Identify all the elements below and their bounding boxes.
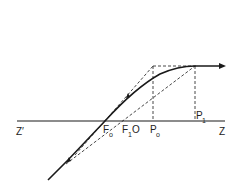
- label-p0-sub: o: [156, 131, 160, 138]
- label-f0-sub: o: [109, 131, 113, 138]
- dashed-ray-f1: [66, 66, 195, 164]
- label-z: Z: [219, 126, 225, 137]
- label-p1-sub: 1: [202, 117, 206, 124]
- optics-diagram: Z′ F o F 1 O P o P 1 Z: [0, 0, 240, 188]
- ray-curve: [48, 66, 222, 180]
- label-z-prime: Z′: [16, 126, 24, 137]
- arrowhead-icon: [219, 63, 226, 69]
- label-o: O: [132, 124, 140, 135]
